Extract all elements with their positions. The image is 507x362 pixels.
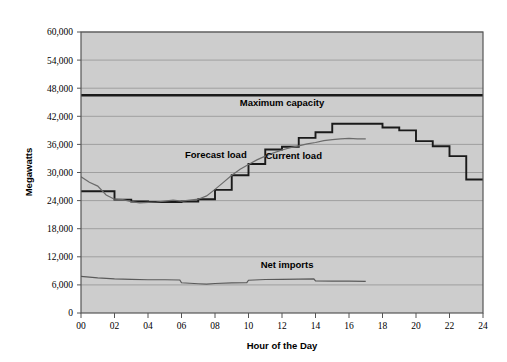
- y-tick-label: 36,000: [47, 140, 73, 150]
- y-axis-title: Megawatts: [23, 148, 34, 197]
- x-tick-label: 22: [445, 321, 455, 331]
- y-tick-label: 42,000: [47, 112, 73, 122]
- y-tick-label: 18,000: [47, 224, 73, 234]
- x-tick-label: 18: [378, 321, 388, 331]
- x-axis-title: Hour of the Day: [247, 340, 318, 351]
- y-tick-label: 6,000: [52, 280, 74, 290]
- y-tick-label: 12,000: [47, 252, 73, 262]
- x-tick-label: 20: [411, 321, 421, 331]
- y-tick-label: 0: [68, 308, 73, 318]
- x-tick-label: 24: [478, 321, 488, 331]
- series-label: Net imports: [261, 259, 314, 270]
- x-tick-label: 04: [143, 321, 153, 331]
- x-tick-label: 16: [344, 321, 354, 331]
- series-label: Current load: [265, 150, 322, 161]
- y-tick-label: 48,000: [47, 84, 73, 94]
- chart-figure: 06,00012,00018,00024,00030,00036,00042,0…: [0, 0, 507, 362]
- x-tick-label: 14: [311, 321, 321, 331]
- y-tick-label: 60,000: [47, 27, 73, 37]
- y-tick-label: 24,000: [47, 196, 73, 206]
- series-label: Forecast load: [185, 149, 247, 160]
- x-tick-label: 08: [210, 321, 220, 331]
- series-label: Maximum capacity: [240, 97, 325, 108]
- energy-load-chart: 06,00012,00018,00024,00030,00036,00042,0…: [0, 0, 507, 362]
- x-tick-label: 02: [110, 321, 120, 331]
- x-tick-label: 12: [277, 321, 287, 331]
- x-tick-label: 06: [177, 321, 187, 331]
- y-tick-label: 54,000: [47, 56, 73, 66]
- x-tick-label: 10: [244, 321, 254, 331]
- y-tick-label: 30,000: [47, 168, 73, 178]
- x-tick-label: 00: [76, 321, 86, 331]
